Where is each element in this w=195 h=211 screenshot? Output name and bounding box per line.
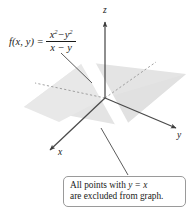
formula-denominator: x − y: [48, 42, 74, 54]
excluded-points-callout: All points with y = x are excluded from …: [63, 176, 186, 207]
z-axis-label: z: [103, 6, 107, 16]
formula-lhs: f(x, y): [9, 37, 34, 48]
formula-numerator: x2−y2: [48, 30, 75, 41]
y-axis-label: y: [177, 131, 181, 141]
callout-line-1-prefix: All points with: [70, 180, 128, 190]
math-figure-3d-plane: f(x, y) = x2−y2 x − y z y x All points w…: [0, 0, 195, 211]
formula-fraction: x2−y2 x − y: [46, 30, 76, 54]
callout-line-1: All points with y = x: [70, 180, 180, 191]
callout-line-1-math: y = x: [128, 180, 147, 190]
numerator-term2-exponent: 2: [69, 28, 72, 35]
numerator-operator: −: [58, 29, 65, 40]
x-axis-label: x: [58, 148, 62, 158]
callout-leader-line: [101, 128, 128, 175]
callout-line-2: are excluded from graph.: [70, 191, 180, 202]
formula-equals: =: [34, 37, 46, 48]
function-formula: f(x, y) = x2−y2 x − y: [9, 30, 76, 54]
